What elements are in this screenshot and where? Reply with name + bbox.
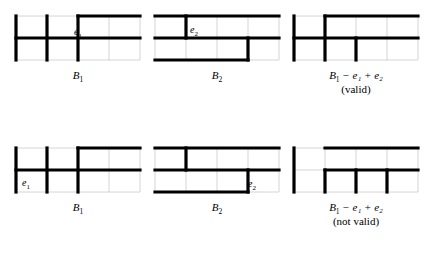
edge-label-bottom-middle: e2 [248,178,256,192]
grid-svg-top-right [288,10,424,66]
grid-diagram-bottom-right [288,142,424,198]
grid-diagram-bottom-left [10,142,146,198]
caption-bottom-left: B1 [16,200,140,217]
grid-diagram-top-middle [149,10,285,66]
caption-top-left: B1 [16,68,140,85]
caption-bottom-middle: B2 [155,200,279,217]
validity-top-right: (valid) [294,83,418,95]
caption-top-middle: B2 [155,68,279,85]
grid-svg-top-middle [149,10,285,66]
grid-svg-bottom-right [288,142,424,198]
edge-label-top-left: e1 [74,26,82,40]
figure-container: e1B1e2B2B1 − e₁ + e₂(valid)e1B1e2B2B1 − … [0,0,430,264]
grid-svg-bottom-middle [149,142,285,198]
validity-bottom-right: (not valid) [294,215,418,227]
grid-svg-bottom-left [10,142,146,198]
edge-label-top-middle: e2 [190,24,198,38]
edge-label-bottom-left: e1 [22,177,30,191]
grid-diagram-bottom-middle [149,142,285,198]
grid-diagram-top-right [288,10,424,66]
